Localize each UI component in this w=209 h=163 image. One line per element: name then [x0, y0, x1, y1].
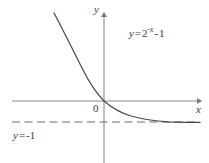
- asymptote-value: -1: [26, 129, 35, 141]
- curve-equation-label: y=2-x-1: [129, 26, 165, 39]
- origin-label: 0: [93, 103, 99, 114]
- equation-equals: =: [134, 27, 142, 39]
- equation-constant: 1: [159, 27, 165, 39]
- exponential-curve: [54, 13, 200, 122]
- x-axis-label: x: [196, 104, 201, 115]
- asymptote-label: y=-1: [13, 130, 35, 141]
- asymptote-equals: =: [18, 129, 26, 141]
- function-graph-figure: y x 0 y=2-x-1 y=-1: [0, 0, 209, 163]
- y-axis-label: y: [94, 4, 99, 15]
